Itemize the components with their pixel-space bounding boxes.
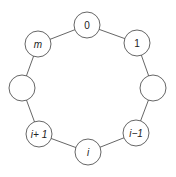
node-n1: 1 [124, 30, 150, 56]
cycle-diagram: 01i−1ii+ 1m [0, 0, 176, 177]
node-nL [9, 75, 35, 101]
node-nR [140, 75, 166, 101]
node-ni: i [75, 139, 101, 165]
node-label: i+ 1 [31, 129, 47, 140]
nodes-group: 01i−1ii+ 1m [9, 12, 166, 165]
node-nip1: i+ 1 [26, 121, 52, 147]
node-label: 1 [134, 38, 140, 49]
node-circle [140, 75, 166, 101]
node-circle [9, 75, 35, 101]
node-nm: m [25, 31, 51, 57]
node-n0: 0 [74, 12, 100, 38]
node-label: m [34, 39, 42, 50]
node-label: 0 [84, 20, 90, 31]
node-nim1: i−1 [123, 120, 149, 146]
node-label: i−1 [129, 128, 143, 139]
